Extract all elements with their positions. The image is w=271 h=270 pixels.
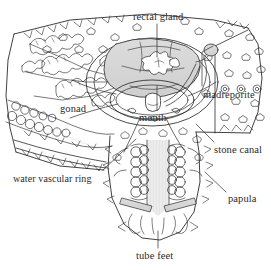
tube-feet-left-row — [131, 144, 149, 200]
leader-stone-canal — [196, 124, 214, 142]
leader-papula — [205, 172, 226, 192]
anatomy-illustration — [0, 0, 271, 270]
sea-star-anatomy-figure: rectal gland madreporite gonad mouth sto… — [0, 0, 271, 270]
mouth-opening — [145, 93, 160, 112]
left-arm-margin — [14, 130, 106, 171]
marginal-spines-top — [24, 15, 124, 38]
marginal-spines-left — [22, 130, 102, 171]
label-mouth: mouth — [139, 112, 166, 123]
label-rectal-gland: rectal gland — [133, 11, 183, 22]
label-madreporite: madreporite — [203, 89, 255, 100]
label-water-vascular-ring: water vascular ring — [13, 173, 92, 184]
lower-arm-tube-feet — [103, 128, 213, 235]
tube-feet-right-row — [168, 144, 186, 200]
label-tube-feet: tube feet — [136, 250, 173, 261]
label-gonad: gonad — [60, 103, 86, 114]
label-stone-canal: stone canal — [214, 144, 262, 155]
label-papula: papula — [228, 193, 257, 204]
